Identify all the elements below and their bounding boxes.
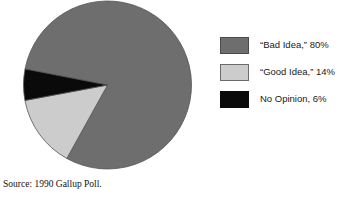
legend-label-good-idea: “Good Idea,” 14%	[260, 67, 335, 77]
pie-chart-figure: “Bad Idea,” 80% “Good Idea,” 14% No Opin…	[0, 0, 346, 198]
legend-item-good-idea[interactable]: “Good Idea,” 14%	[220, 63, 344, 81]
legend-item-bad-idea[interactable]: “Bad Idea,” 80%	[220, 36, 344, 54]
chart-legend: “Bad Idea,” 80% “Good Idea,” 14% No Opin…	[220, 36, 344, 117]
pie-slices	[23, 1, 191, 169]
pie-chart-graphic	[20, 0, 195, 174]
legend-swatch-good-idea	[220, 64, 249, 81]
legend-swatch-bad-idea	[220, 37, 249, 54]
legend-label-bad-idea: “Bad Idea,” 80%	[260, 40, 329, 50]
source-note: Source: 1990 Gallup Poll.	[3, 179, 102, 189]
legend-label-no-opinion: No Opinion, 6%	[260, 94, 327, 104]
legend-item-no-opinion[interactable]: No Opinion, 6%	[220, 90, 344, 108]
legend-swatch-no-opinion	[220, 91, 249, 108]
